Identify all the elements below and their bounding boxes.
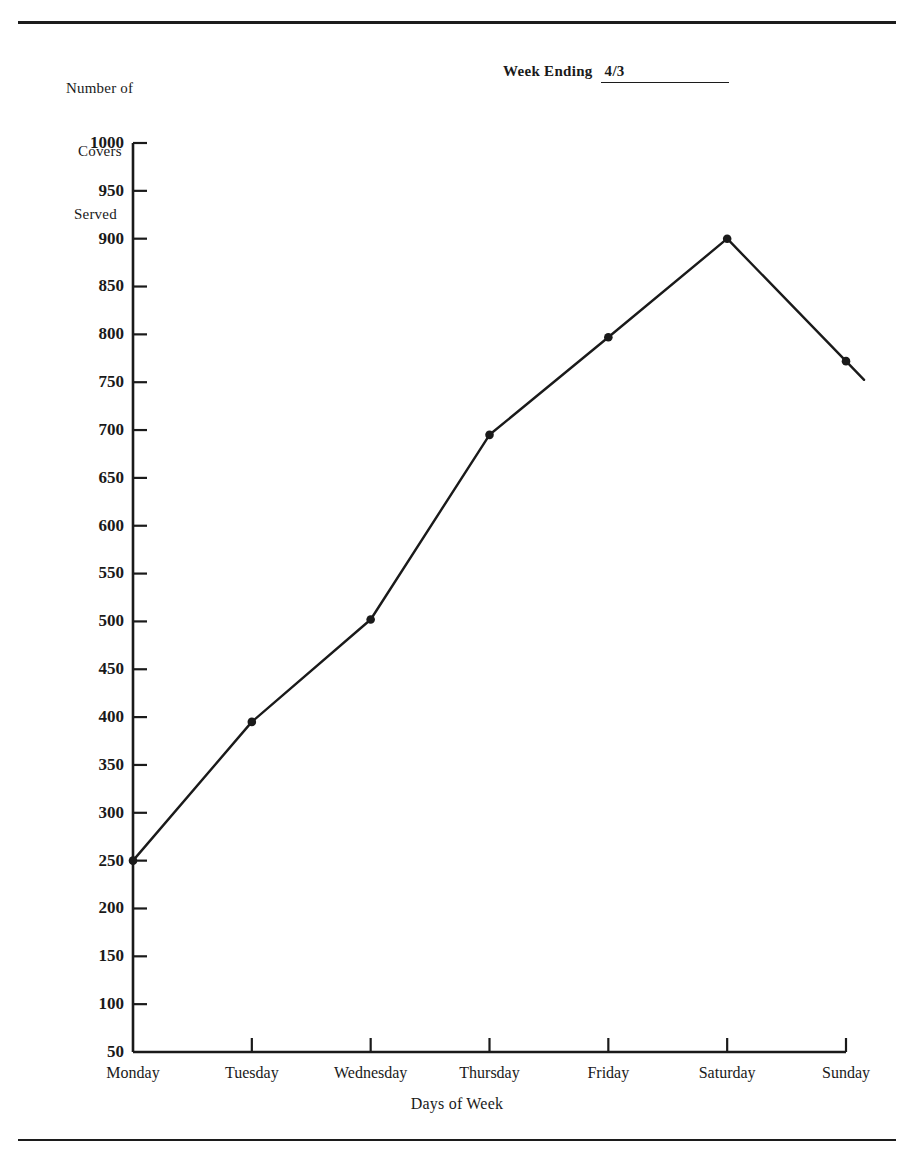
y-tick-label: 250	[99, 851, 125, 870]
y-tick-label: 400	[99, 707, 125, 726]
data-point-marker	[604, 333, 613, 342]
data-point-markers	[129, 234, 851, 865]
y-tick-label: 900	[99, 229, 125, 248]
y-axis-tick-labels: 1000950900850800750700650600550500450400…	[90, 133, 124, 1061]
y-axis-ticks	[133, 143, 147, 1004]
x-tick-label: Sunday	[822, 1064, 870, 1082]
y-tick-label: 800	[99, 324, 125, 343]
x-tick-label: Monday	[106, 1064, 159, 1082]
x-axis-tick-labels: MondayTuesdayWednesdayThursdayFridaySatu…	[106, 1064, 870, 1082]
y-tick-label: 100	[99, 994, 125, 1013]
y-tick-label: 50	[107, 1042, 124, 1061]
data-series-line	[133, 239, 846, 861]
data-point-marker	[129, 856, 138, 865]
y-tick-label: 750	[99, 372, 125, 391]
chart-canvas: 1000950900850800750700650600550500450400…	[0, 0, 914, 1154]
x-tick-label: Wednesday	[334, 1064, 407, 1082]
y-tick-label: 550	[99, 563, 125, 582]
y-tick-label: 150	[99, 946, 125, 965]
data-point-marker	[366, 615, 375, 624]
y-tick-label: 500	[99, 611, 125, 630]
bottom-divider-rule	[18, 1139, 896, 1141]
x-axis-title: Days of Week	[0, 1095, 914, 1113]
data-point-marker	[248, 718, 257, 727]
y-tick-label: 600	[99, 516, 125, 535]
y-tick-label: 350	[99, 755, 125, 774]
data-point-marker	[723, 234, 732, 243]
y-tick-label: 200	[99, 898, 125, 917]
y-tick-label: 950	[99, 181, 125, 200]
y-tick-label: 700	[99, 420, 125, 439]
y-tick-label: 650	[99, 468, 125, 487]
y-tick-label: 850	[99, 276, 125, 295]
x-tick-label: Friday	[587, 1064, 629, 1082]
x-tick-label: Tuesday	[225, 1064, 279, 1082]
y-tick-label: 1000	[90, 133, 124, 152]
data-point-marker	[842, 357, 851, 366]
x-tick-label: Saturday	[699, 1064, 756, 1082]
x-tick-label: Thursday	[459, 1064, 519, 1082]
data-point-marker	[485, 431, 494, 440]
line-chart: 1000950900850800750700650600550500450400…	[0, 0, 914, 1154]
x-axis-ticks	[252, 1038, 846, 1052]
y-tick-label: 450	[99, 659, 125, 678]
y-tick-label: 300	[99, 803, 125, 822]
